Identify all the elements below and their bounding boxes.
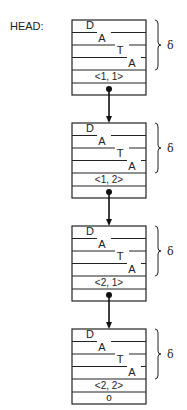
delta-label: δ (167, 245, 174, 258)
data-letter: A (128, 57, 136, 69)
linked-list-diagram: HEAD: DATA<1, 1>δDATA<1, 2>δDATA<2, 1>δD… (0, 0, 187, 410)
arrowhead-icon (106, 322, 112, 329)
data-letter: D (86, 19, 94, 31)
data-letter: A (98, 135, 106, 147)
data-letter: T (117, 147, 124, 159)
data-letter: D (86, 328, 94, 340)
head-label: HEAD: (10, 20, 44, 32)
brace-icon (155, 123, 161, 173)
arrowhead-icon (106, 219, 112, 226)
brace-icon (155, 329, 161, 379)
data-letter: A (98, 238, 106, 250)
list-node: DATA<2, 2>δo (72, 328, 174, 404)
brace-icon (155, 20, 161, 70)
data-letter: T (117, 44, 124, 56)
list-node: DATA<1, 1>δ (72, 19, 174, 123)
delta-label: δ (167, 142, 174, 155)
data-letter: D (86, 225, 94, 237)
data-letter: A (128, 263, 136, 275)
list-node: DATA<1, 2>δ (72, 122, 174, 226)
delta-label: δ (167, 39, 174, 52)
data-letter: T (117, 353, 124, 365)
arrowhead-icon (106, 116, 112, 123)
node-key-label: <2, 1> (95, 277, 124, 288)
data-letter: A (98, 32, 106, 44)
data-letter: A (128, 160, 136, 172)
delta-label: δ (167, 348, 174, 361)
brace-icon (155, 226, 161, 276)
null-pointer-symbol: o (106, 392, 112, 403)
data-letter: D (86, 122, 94, 134)
list-node: DATA<2, 1>δ (72, 225, 174, 329)
data-letter: A (128, 366, 136, 378)
node-key-label: <1, 2> (95, 174, 124, 185)
data-letter: T (117, 250, 124, 262)
data-letter: A (98, 341, 106, 353)
node-key-label: <2, 2> (95, 380, 124, 391)
node-key-label: <1, 1> (95, 71, 124, 82)
